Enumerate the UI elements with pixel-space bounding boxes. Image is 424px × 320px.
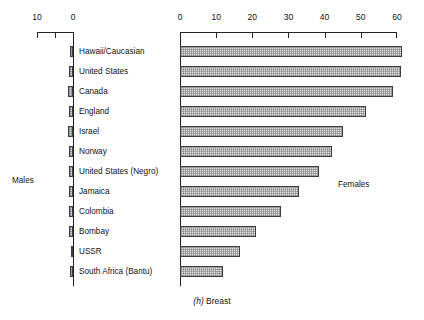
category-label: United States	[79, 68, 128, 76]
category-label: United States (Negro)	[79, 168, 158, 176]
category-label: Hawaii/Caucasian	[79, 48, 145, 56]
category-label: USSR	[79, 248, 102, 256]
category-labels-group: Hawaii/CaucasianUnited StatesCanadaEngla…	[0, 0, 424, 320]
males-annotation: Males	[12, 176, 34, 185]
category-label: Canada	[79, 88, 108, 96]
category-label: Colombia	[79, 208, 114, 216]
category-label: Norway	[79, 148, 107, 156]
category-label: Jamaica	[79, 188, 110, 196]
chart-canvas: 100 0102030405060 Hawaii/CaucasianUnited…	[0, 0, 424, 320]
category-label: Bombay	[79, 228, 109, 236]
figure-caption: (h) Breast	[0, 296, 424, 306]
category-label: Israel	[79, 128, 99, 136]
figure-caption-index: (h)	[193, 296, 203, 306]
figure-caption-title: Breast	[206, 296, 231, 306]
females-annotation: Females	[338, 180, 369, 189]
category-label: South Africa (Bantu)	[79, 268, 152, 276]
category-label: England	[79, 108, 109, 116]
